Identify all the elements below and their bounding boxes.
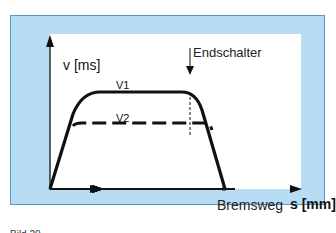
curve-v2-label: V2 [116, 112, 129, 124]
limit-switch-arrow-icon [186, 66, 194, 75]
x-axis-unit-label: s [mm] [290, 196, 336, 212]
y-axis-arrow-icon [46, 35, 54, 47]
curve-v1 [50, 92, 225, 189]
limit-switch-label: Endschalter [193, 45, 262, 60]
curve-v2 [73, 123, 212, 130]
curve-v1-label: V1 [116, 79, 129, 91]
figure-caption: Bild 20 [10, 229, 41, 233]
velocity-distance-diagram [0, 0, 336, 233]
x-axis-label: Bremsweg [217, 197, 283, 213]
y-axis-label: v [ms] [63, 57, 100, 73]
